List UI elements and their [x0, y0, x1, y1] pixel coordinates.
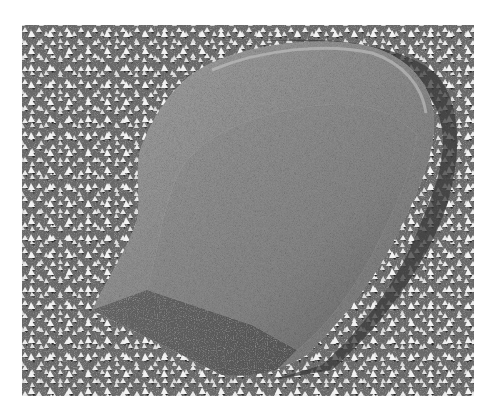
micrograph-drawing [22, 25, 474, 396]
micrograph-image [22, 25, 474, 396]
